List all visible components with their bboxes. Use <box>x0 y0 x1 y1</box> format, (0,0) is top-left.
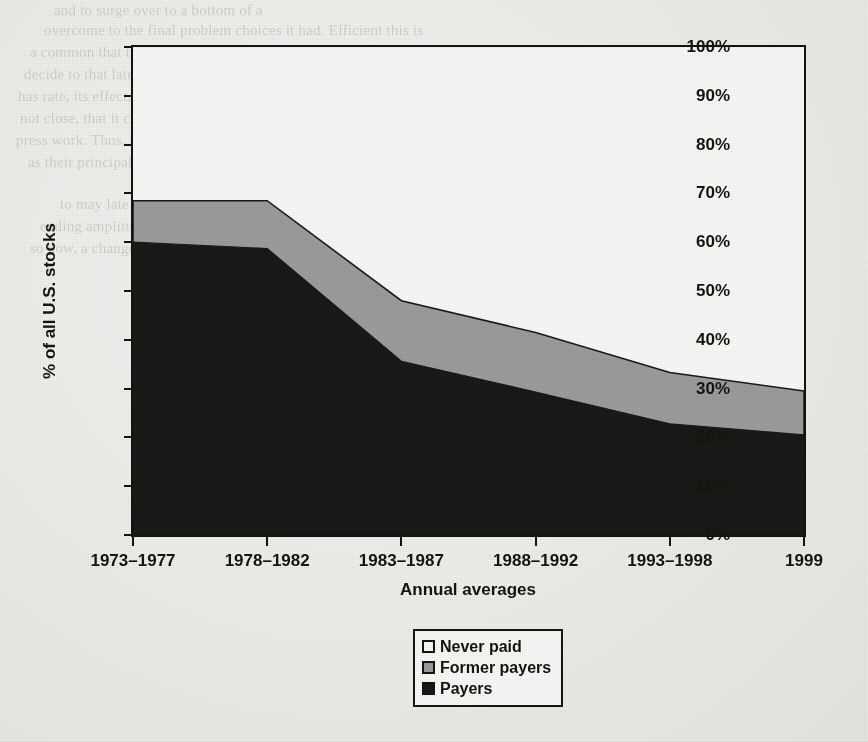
y-tick-mark <box>124 241 133 243</box>
x-axis-title: Annual averages <box>0 580 868 600</box>
legend-label: Never paid <box>440 639 522 655</box>
legend-swatch-never-paid <box>422 640 435 653</box>
x-tick-mark <box>669 537 671 546</box>
y-tick-mark <box>124 95 133 97</box>
y-tick-label: 10% <box>696 476 730 496</box>
y-tick-mark <box>124 485 133 487</box>
y-tick-label: 90% <box>696 86 730 106</box>
y-tick-label: 100% <box>687 37 730 57</box>
y-tick-mark <box>124 436 133 438</box>
y-tick-label: 60% <box>696 232 730 252</box>
x-tick-mark <box>803 537 805 546</box>
x-tick-label: 1973–1977 <box>90 551 175 571</box>
y-tick-label: 0% <box>705 525 730 545</box>
stacked-area-chart: % of all U.S. stocks 0%10%20%30%40%50%60… <box>0 0 868 742</box>
x-tick-label: 1993–1998 <box>627 551 712 571</box>
x-tick-mark <box>266 537 268 546</box>
legend-label: Payers <box>440 681 493 697</box>
legend-label: Former payers <box>440 660 551 676</box>
y-tick-label: 50% <box>696 281 730 301</box>
y-tick-mark <box>124 339 133 341</box>
y-tick-label: 40% <box>696 330 730 350</box>
legend-swatch-former-payers <box>422 661 435 674</box>
x-tick-label: 1999 <box>785 551 823 571</box>
legend-item: Payers <box>422 678 551 699</box>
x-tick-mark <box>535 537 537 546</box>
chart-legend: Never paid Former payers Payers <box>413 629 563 707</box>
x-tick-label: 1978–1982 <box>225 551 310 571</box>
x-tick-mark <box>400 537 402 546</box>
y-tick-mark <box>124 534 133 536</box>
legend-item: Former payers <box>422 657 551 678</box>
y-tick-mark <box>124 46 133 48</box>
y-tick-mark <box>124 144 133 146</box>
x-tick-mark <box>132 537 134 546</box>
y-axis-title: % of all U.S. stocks <box>40 171 60 431</box>
y-tick-label: 30% <box>696 379 730 399</box>
y-tick-mark <box>124 192 133 194</box>
y-tick-mark <box>124 388 133 390</box>
y-tick-label: 80% <box>696 135 730 155</box>
y-tick-mark <box>124 290 133 292</box>
y-tick-label: 70% <box>696 183 730 203</box>
legend-item: Never paid <box>422 636 551 657</box>
x-tick-label: 1983–1987 <box>359 551 444 571</box>
legend-swatch-payers <box>422 682 435 695</box>
y-tick-label: 20% <box>696 427 730 447</box>
x-tick-label: 1988–1992 <box>493 551 578 571</box>
